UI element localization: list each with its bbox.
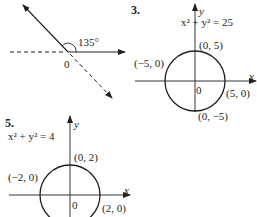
x-axis-label: x [124, 184, 129, 196]
point-left: (−5, 0) [134, 57, 164, 69]
origin-label: 0 [64, 58, 70, 70]
point-left: (−2, 0) [8, 171, 38, 183]
angle-figure [10, 5, 125, 98]
point-right: (5, 0) [226, 87, 250, 99]
point-bottom: (0, −5) [198, 110, 228, 122]
x-axis-label: x [249, 70, 254, 82]
origin-label: 0 [72, 199, 78, 211]
origin-label: 0 [196, 84, 202, 96]
point-top: (0, 2) [74, 151, 98, 163]
terminal-ray [23, 5, 68, 52]
equation: x² + y² = 25 [181, 16, 233, 28]
angle-label: 135° [78, 36, 99, 48]
point-right: (2, 0) [102, 202, 126, 214]
problem-number: 3. [131, 4, 140, 16]
dashed-extension-down [70, 54, 112, 98]
y-axis-label: y [74, 118, 79, 130]
problem-number: 5. [5, 117, 14, 129]
equation: x² + y² = 4 [8, 130, 55, 142]
point-top: (0, 5) [199, 39, 223, 51]
